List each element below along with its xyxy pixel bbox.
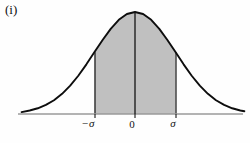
- normal-curve-plot: −σ0σ: [0, 0, 250, 143]
- x-axis-tick-label-minus-sigma: −σ: [82, 117, 95, 129]
- x-axis-tick-label-zero: 0: [129, 118, 135, 130]
- x-axis-tick-label-sigma: σ: [170, 117, 176, 129]
- normal-distribution-figure: (i) −σ0σ: [0, 0, 250, 143]
- x-axis-tick-labels: −σ0σ: [82, 117, 177, 130]
